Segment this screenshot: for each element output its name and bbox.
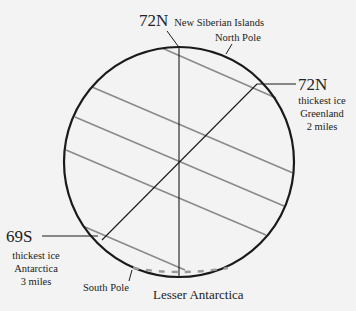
latitude-line-2	[92, 87, 293, 173]
top-place-name: New Siberian Islands	[174, 17, 264, 28]
left-ice-info: thickest ice Antarctica 3 miles	[0, 249, 72, 288]
south-pole-pointer	[129, 270, 132, 281]
south-pole-label: South Pole	[83, 283, 129, 294]
north-pole-pointer	[226, 44, 232, 54]
right-info-line-2: Greenland	[289, 107, 355, 120]
top-latitude-label: 72N New Siberian Islands	[139, 12, 264, 29]
latitude-line-5	[85, 227, 185, 270]
right-info-line-3: 2 miles	[289, 120, 355, 133]
top-lat-pointer	[167, 31, 178, 46]
left-lat-value: 69S	[6, 228, 32, 245]
left-info-line-2: Antarctica	[0, 262, 72, 275]
left-info-line-1: thickest ice	[0, 249, 72, 262]
left-info-line-3: 3 miles	[0, 275, 72, 288]
right-lat-value: 72N	[298, 76, 327, 93]
bottom-place-label: Lesser Antarctica	[153, 288, 244, 301]
north-pole-label: North Pole	[215, 33, 261, 44]
latitude-line-4	[66, 150, 266, 235]
top-lat-value: 72N	[139, 11, 168, 30]
right-info-line-1: thickest ice	[289, 94, 355, 107]
right-ice-info: thickest ice Greenland 2 miles	[289, 94, 355, 133]
